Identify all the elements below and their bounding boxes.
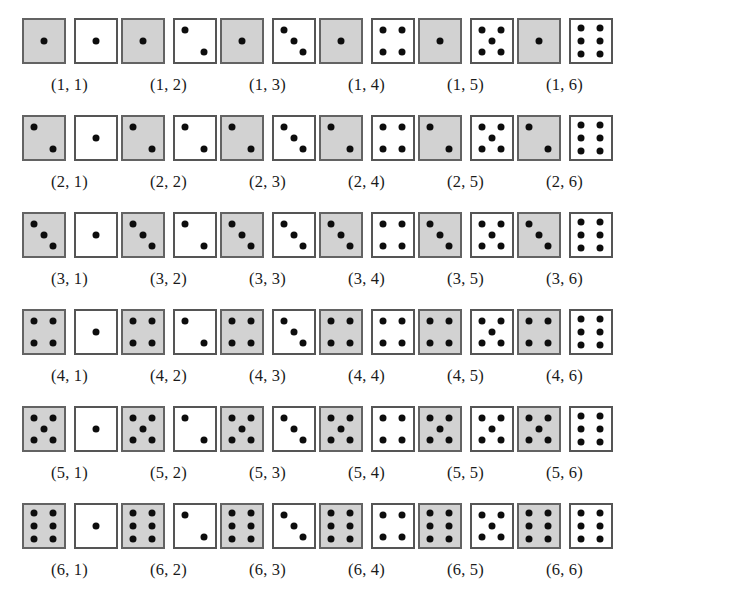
first-die <box>22 503 66 549</box>
dice-pair <box>121 115 217 163</box>
die-pip <box>49 510 56 517</box>
die-pip <box>346 145 353 152</box>
dice-pair <box>319 503 415 551</box>
die-pip <box>290 426 297 433</box>
die-pip <box>445 318 452 325</box>
die-pip <box>49 318 56 325</box>
die-pip <box>497 512 504 519</box>
die-pip <box>596 232 603 239</box>
second-die <box>569 309 613 355</box>
dice-outcome-cell: (1, 3) <box>218 18 317 115</box>
die-pip <box>526 415 533 422</box>
dice-pair <box>319 406 415 454</box>
die-pip <box>328 436 335 443</box>
die-pip <box>596 341 603 348</box>
die-pip <box>479 124 486 131</box>
die-pip <box>488 523 495 530</box>
die-pip <box>398 221 405 228</box>
die-pip <box>182 221 189 228</box>
die-pip <box>596 413 603 420</box>
die-pip <box>229 535 236 542</box>
dice-outcome-cell: (6, 3) <box>218 503 317 600</box>
die-pip <box>544 510 551 517</box>
die-pip <box>148 242 155 249</box>
die-pip <box>328 535 335 542</box>
dice-outcome-cell: (2, 3) <box>218 115 317 212</box>
outcome-label: (4, 1) <box>51 366 88 386</box>
die-pip <box>526 523 533 530</box>
die-pip <box>247 145 254 152</box>
die-pip <box>299 48 306 55</box>
die-pip <box>148 318 155 325</box>
outcome-label: (2, 3) <box>249 172 286 192</box>
die-pip <box>544 242 551 249</box>
die-pip <box>281 124 288 131</box>
die-pip <box>92 135 99 142</box>
die-pip <box>488 135 495 142</box>
die-pip <box>535 232 542 239</box>
die-pip <box>596 135 603 142</box>
outcome-label: (1, 1) <box>51 75 88 95</box>
dice-outcome-cell: (6, 2) <box>119 503 218 600</box>
die-pip <box>398 145 405 152</box>
die-pip <box>398 415 405 422</box>
die-pip <box>229 221 236 228</box>
die-pip <box>479 145 486 152</box>
die-pip <box>398 242 405 249</box>
dice-outcome-cell: (5, 4) <box>317 406 416 503</box>
die-pip <box>380 221 387 228</box>
die-pip <box>380 242 387 249</box>
dice-grid-row: (2, 1)(2, 2)(2, 3)(2, 4)(2, 5)(2, 6) <box>0 115 751 212</box>
die-pip <box>290 329 297 336</box>
die-pip <box>40 426 47 433</box>
die-pip <box>139 232 146 239</box>
die-pip <box>328 221 335 228</box>
dice-outcome-cell: (2, 5) <box>416 115 515 212</box>
die-pip <box>148 510 155 517</box>
first-die <box>517 18 561 64</box>
die-pip <box>578 329 585 336</box>
die-pip <box>544 318 551 325</box>
die-pip <box>596 147 603 154</box>
second-die <box>272 406 316 452</box>
die-pip <box>398 124 405 131</box>
dice-outcome-cell: (3, 5) <box>416 212 515 309</box>
die-pip <box>130 436 137 443</box>
first-die <box>22 309 66 355</box>
die-pip <box>200 339 207 346</box>
dice-outcome-cell: (6, 1) <box>20 503 119 600</box>
die-pip <box>488 38 495 45</box>
die-pip <box>398 48 405 55</box>
second-die <box>74 212 118 258</box>
die-pip <box>398 318 405 325</box>
dice-pair <box>121 309 217 357</box>
dice-pair <box>319 18 415 66</box>
dice-outcome-cell: (1, 1) <box>20 18 119 115</box>
die-pip <box>31 339 38 346</box>
die-pip <box>578 38 585 45</box>
dice-outcome-cell: (6, 5) <box>416 503 515 600</box>
first-die <box>220 406 264 452</box>
die-pip <box>229 523 236 530</box>
die-pip <box>544 339 551 346</box>
dice-pair <box>220 212 316 260</box>
die-pip <box>182 27 189 34</box>
die-pip <box>130 318 137 325</box>
die-pip <box>445 436 452 443</box>
die-pip <box>488 426 495 433</box>
die-pip <box>380 436 387 443</box>
die-pip <box>130 221 137 228</box>
die-pip <box>238 232 245 239</box>
dice-pair <box>22 18 118 66</box>
outcome-label: (3, 4) <box>348 269 385 289</box>
first-die <box>418 309 462 355</box>
die-pip <box>238 426 245 433</box>
dice-outcome-cell: (2, 2) <box>119 115 218 212</box>
dice-sample-space-grid: (1, 1)(1, 2)(1, 3)(1, 4)(1, 5)(1, 6)(2, … <box>0 0 751 616</box>
dice-pair <box>220 503 316 551</box>
die-pip <box>337 426 344 433</box>
dice-outcome-cell: (1, 6) <box>515 18 614 115</box>
second-die <box>173 115 217 161</box>
die-pip <box>578 510 585 517</box>
die-pip <box>578 25 585 32</box>
